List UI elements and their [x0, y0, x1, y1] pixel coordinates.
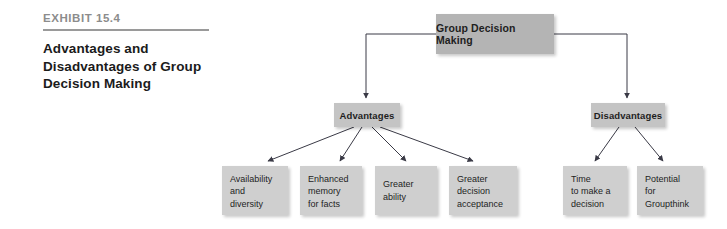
edge-advantages-leaf-2 — [340, 127, 362, 161]
edge-root-disadvantages — [554, 34, 627, 98]
edge-advantages-leaf-3 — [372, 127, 406, 161]
leaf-greater-decision-acceptance[interactable]: Greater decision acceptance — [449, 166, 517, 215]
leaf-line: Groupthink — [645, 198, 703, 210]
leaf-line: for facts — [308, 198, 362, 210]
node-label: Group Decision Making — [436, 22, 554, 46]
leaf-line: Enhanced — [308, 173, 362, 185]
edge-advantages-leaf-1 — [268, 127, 354, 161]
leaf-line: Availability — [230, 173, 288, 185]
leaf-line: memory — [308, 185, 362, 197]
leaf-line: Time — [571, 173, 627, 185]
node-label: Advantages — [340, 110, 395, 121]
exhibit-figure: EXHIBIT 15.4 Advantages and Disadvantage… — [0, 0, 727, 229]
node-label: Disadvantages — [594, 110, 662, 121]
node-disadvantages[interactable]: Disadvantages — [591, 103, 665, 127]
leaf-line: Greater — [457, 173, 517, 185]
leaf-line: diversity — [230, 198, 288, 210]
leaf-availability-and-diversity[interactable]: Availability and diversity — [222, 166, 288, 215]
edge-disadvantages-leaf-1 — [595, 127, 619, 161]
edge-advantages-leaf-4 — [380, 127, 473, 161]
leaf-line: ability — [383, 191, 437, 203]
leaf-line: to make a — [571, 185, 627, 197]
leaf-time-to-make-a-decision[interactable]: Time to make a decision — [563, 166, 627, 215]
leaf-line: acceptance — [457, 198, 517, 210]
leaf-line: decision — [571, 198, 627, 210]
leaf-line: for — [645, 185, 703, 197]
node-advantages[interactable]: Advantages — [334, 103, 400, 127]
leaf-line: Potential — [645, 173, 703, 185]
leaf-potential-for-groupthink[interactable]: Potential for Groupthink — [637, 166, 703, 215]
leaf-line: and — [230, 185, 288, 197]
edge-root-advantages — [366, 34, 436, 98]
leaf-greater-ability[interactable]: Greater ability — [375, 166, 437, 215]
leaf-line: decision — [457, 185, 517, 197]
edge-disadvantages-leaf-2 — [635, 127, 663, 161]
leaf-line: Greater — [383, 178, 437, 190]
leaf-enhanced-memory-for-facts[interactable]: Enhanced memory for facts — [300, 166, 362, 215]
node-group-decision-making[interactable]: Group Decision Making — [436, 14, 554, 54]
